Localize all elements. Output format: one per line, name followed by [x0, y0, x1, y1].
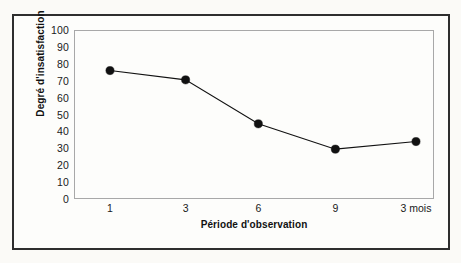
x-tick-label: 9: [332, 202, 338, 214]
y-tick-label: 100: [51, 24, 69, 36]
data-point-marker: [331, 145, 339, 153]
y-tick-label: 10: [57, 176, 69, 188]
data-point-marker: [412, 137, 420, 145]
y-axis-tick-labels: 1009080706050403020100: [36, 30, 72, 199]
y-tick-label: 30: [57, 142, 69, 154]
data-series-layer: [74, 30, 434, 199]
page-root: Degré d'insatisfaction 10090807060504030…: [0, 0, 461, 263]
x-tick-label: 1: [107, 202, 113, 214]
data-point-marker: [182, 76, 190, 84]
line-chart-figure: Degré d'insatisfaction 10090807060504030…: [14, 16, 452, 252]
series-markers: [106, 66, 420, 153]
y-tick-label: 90: [57, 41, 69, 53]
y-tick-label: 0: [63, 193, 69, 205]
y-tick-label: 20: [57, 159, 69, 171]
x-tick-label: 6: [255, 202, 261, 214]
y-tick-label: 50: [57, 109, 69, 121]
y-tick-label: 40: [57, 125, 69, 137]
y-tick-label: 70: [57, 75, 69, 87]
figure-outer-frame: Degré d'insatisfaction 10090807060504030…: [12, 14, 450, 250]
x-axis-title: Période d'observation: [74, 219, 434, 230]
x-axis-tick-labels: 13693 mois: [74, 202, 434, 218]
y-tick-label: 60: [57, 92, 69, 104]
data-point-marker: [254, 120, 262, 128]
series-line: [110, 71, 416, 150]
y-tick-label: 80: [57, 58, 69, 70]
data-point-marker: [106, 66, 114, 74]
x-tick-label: 3: [183, 202, 189, 214]
x-tick-label: 3 mois: [401, 202, 432, 214]
